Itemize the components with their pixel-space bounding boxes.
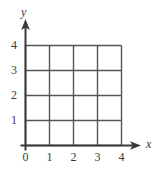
- y-axis: [21, 19, 30, 151]
- y-tick-label-2: 2: [7, 89, 21, 101]
- x-axis-label: x: [146, 138, 151, 150]
- grid-drawing: [0, 0, 163, 173]
- x-tick-label-2: 2: [67, 151, 81, 163]
- x-tick-label-1: 1: [43, 151, 57, 163]
- y-axis-label: y: [21, 6, 26, 18]
- y-tick-label-4: 4: [7, 39, 21, 51]
- x-tick-label-3: 3: [91, 151, 105, 163]
- y-tick-label-3: 3: [7, 64, 21, 76]
- y-tick-label-1: 1: [7, 114, 21, 126]
- x-axis: [21, 141, 142, 150]
- coordinate-grid-figure: y x 4 3 2 1 0 1 2 3 4: [0, 0, 163, 173]
- x-tick-label-0: 0: [19, 151, 33, 163]
- x-tick-label-4: 4: [115, 151, 129, 163]
